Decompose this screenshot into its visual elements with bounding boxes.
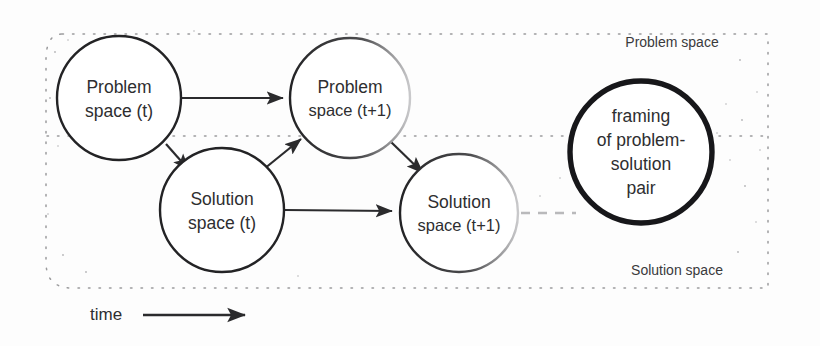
node-framing-pair-circle bbox=[570, 81, 712, 223]
arrow-solution-t-to-solution-t1 bbox=[285, 210, 392, 211]
time-axis-label: time bbox=[90, 305, 122, 324]
time-axis: time bbox=[90, 305, 245, 324]
node-problem-space-t-circle bbox=[57, 36, 181, 160]
arrow-solution-t-to-problem-t1 bbox=[264, 139, 301, 169]
node-framing-pair-line1: framing bbox=[612, 106, 670, 126]
node-solution-space-t1-line1: Solution bbox=[427, 192, 490, 212]
node-solution-space-t-circle bbox=[160, 148, 284, 272]
node-solution-space-t1-line2: space (t+1) bbox=[418, 216, 501, 234]
node-problem-space-t-line1: Problem bbox=[86, 77, 151, 97]
node-solution-space-t1-circle bbox=[400, 154, 518, 272]
node-framing-pair-line3: solution bbox=[611, 154, 671, 174]
node-solution-space-t1[interactable]: Solution space (t+1) bbox=[400, 154, 518, 272]
node-problem-space-t-line2: space (t) bbox=[85, 101, 153, 121]
node-framing-pair[interactable]: framing of problem- solution pair bbox=[570, 81, 712, 223]
node-problem-space-t1[interactable]: Problem space (t+1) bbox=[290, 38, 410, 158]
node-solution-space-t-line2: space (t) bbox=[188, 213, 256, 233]
node-solution-space-t-line1: Solution bbox=[190, 189, 253, 209]
node-problem-space-t1-circle bbox=[290, 38, 410, 158]
diagram-canvas: Problem space (t) Problem space (t+1) So… bbox=[0, 0, 820, 346]
coevolution-diagram: Problem space (t) Problem space (t+1) So… bbox=[0, 0, 820, 346]
node-solution-space-t[interactable]: Solution space (t) bbox=[160, 148, 284, 272]
region-label-solution-space: Solution space bbox=[631, 262, 723, 278]
region-label-problem-space: Problem space bbox=[625, 34, 719, 50]
node-problem-space-t[interactable]: Problem space (t) bbox=[57, 36, 181, 160]
node-framing-pair-line4: pair bbox=[626, 178, 655, 198]
node-problem-space-t1-line1: Problem bbox=[317, 77, 382, 97]
node-framing-pair-line2: of problem- bbox=[597, 130, 686, 150]
arrow-problem-t1-to-solution-t1 bbox=[391, 142, 423, 173]
node-problem-space-t1-line2: space (t+1) bbox=[309, 101, 392, 119]
